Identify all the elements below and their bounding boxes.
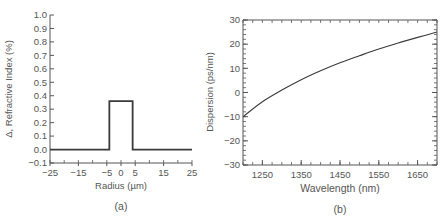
- y-tick-label: −10: [224, 111, 240, 122]
- panel-label: (b): [334, 203, 347, 215]
- y-axis-title: Dispersion (ps/nm): [204, 52, 215, 132]
- y-tick-label: 0.3: [34, 103, 47, 114]
- y-tick-label: 1.0: [34, 9, 47, 20]
- chart-panel-b: 12501350145015501650−30−20−100102030Wave…: [204, 14, 437, 215]
- y-tick-label: 0.1: [34, 130, 47, 141]
- x-tick-label: 1550: [368, 169, 389, 180]
- x-axis-title: Radius (µm): [95, 180, 147, 191]
- chart-panel-a: −25−15−5051525−0.10.00.10.20.30.40.50.60…: [3, 9, 197, 212]
- y-tick-label: −0.1: [28, 157, 47, 168]
- y-tick-label: 0.5: [34, 77, 47, 88]
- y-tick-label: −20: [224, 135, 240, 146]
- y-tick-label: 0.4: [34, 90, 47, 101]
- x-tick-label: 1450: [329, 169, 350, 180]
- x-tick-label: 25: [187, 167, 198, 178]
- y-tick-label: 0.2: [34, 117, 47, 128]
- y-tick-label: 0: [235, 87, 240, 98]
- x-tick-label: 5: [133, 167, 138, 178]
- x-axis-title: Wavelength (nm): [300, 182, 380, 194]
- x-tick-label: 1350: [291, 169, 312, 180]
- y-tick-label: −30: [224, 159, 240, 170]
- x-tick-label: 0: [118, 167, 123, 178]
- refractive-index-profile: [50, 101, 192, 149]
- y-tick-label: 10: [229, 63, 240, 74]
- x-tick-label: 1250: [252, 169, 273, 180]
- y-tick-label: 20: [229, 38, 240, 49]
- y-tick-label: 0.7: [34, 50, 47, 61]
- panel-label: (a): [115, 200, 128, 212]
- chart-figure: −25−15−5051525−0.10.00.10.20.30.40.50.60…: [0, 0, 448, 223]
- x-tick-label: 1650: [407, 169, 428, 180]
- y-tick-label: 0.8: [34, 36, 47, 47]
- dispersion-curve: [243, 32, 437, 117]
- x-tick-label: −5: [101, 167, 112, 178]
- y-axis-title: Δ, Refractive Index (%): [3, 40, 14, 138]
- y-tick-label: 0.0: [34, 144, 47, 155]
- x-tick-label: −25: [42, 167, 58, 178]
- y-tick-label: 0.9: [34, 23, 47, 34]
- x-tick-label: −15: [70, 167, 86, 178]
- y-tick-label: 0.6: [34, 63, 47, 74]
- y-tick-label: 30: [229, 14, 240, 25]
- x-tick-label: 15: [158, 167, 169, 178]
